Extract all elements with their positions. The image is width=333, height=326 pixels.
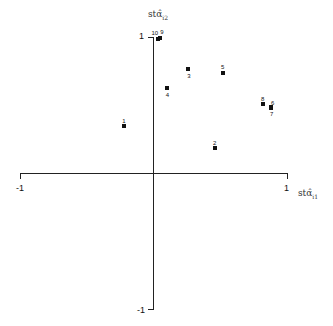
data-point-marker [261,102,265,106]
y-axis-line [153,37,154,310]
y-axis-title: stα̂i2 [148,9,168,21]
data-point-marker [269,106,273,110]
data-point-marker [213,146,217,150]
x-axis-title: stα̂i1 [298,188,318,200]
data-point-marker [156,37,160,41]
data-point-marker [221,71,225,75]
data-point-marker [186,67,190,71]
data-point-label: 10 [152,30,159,36]
x-axis-left-tick [20,173,21,179]
data-point-label: 7 [270,111,273,117]
data-point-label: 4 [166,92,169,98]
x-axis-line [20,173,288,174]
data-point-label: 5 [221,64,224,70]
y-axis-bottom-tick [148,309,154,310]
data-point-label: 9 [160,29,163,35]
y-tick-min: -1 [137,305,145,315]
scatter-plot: -1 1 1 -1 stα̂i1 stα̂i2 12345678910 [0,0,333,326]
x-tick-max: 1 [284,183,289,193]
data-point-marker [122,124,126,128]
x-tick-min: -1 [16,183,24,193]
data-point-label: 8 [261,96,264,102]
y-tick-max: 1 [139,31,144,41]
data-point-label: 3 [187,73,190,79]
x-axis-right-tick [287,173,288,179]
data-point-marker [165,86,169,90]
data-point-label: 6 [271,100,274,106]
y-axis-top-tick [148,37,154,38]
data-point-label: 2 [213,140,216,146]
data-point-label: 1 [122,118,125,124]
